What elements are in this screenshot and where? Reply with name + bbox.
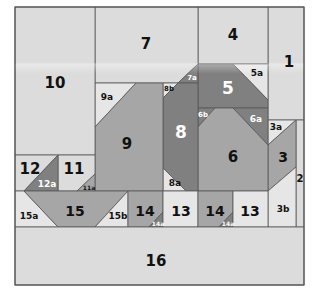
quilt-diagram: 123a33b45a56b6a677a8b88a9a9101111a1212a1… xyxy=(0,0,316,297)
scan-sheen xyxy=(15,7,304,285)
piece-label-16: 16 xyxy=(146,252,167,270)
piece-label-11: 11 xyxy=(64,160,85,178)
piece-label-13-left: 13 xyxy=(171,203,190,219)
piece-label-1: 1 xyxy=(284,53,294,71)
piece-label-9: 9 xyxy=(122,135,132,153)
piece-label-6a: 6a xyxy=(250,114,262,124)
piece-label-7a: 7a xyxy=(187,74,197,82)
piece-label-13-right: 13 xyxy=(240,203,259,219)
piece-label-8b: 8b xyxy=(164,85,174,93)
pieces-group xyxy=(15,7,304,285)
piece-label-7: 7 xyxy=(141,35,151,53)
piece-label-10: 10 xyxy=(45,74,66,92)
piece-label-14a-left: 14a xyxy=(152,220,164,227)
piece-label-11a: 11a xyxy=(83,184,95,191)
piece-label-12: 12 xyxy=(20,160,41,178)
piece-label-6b: 6b xyxy=(198,111,208,119)
piece-label-4: 4 xyxy=(228,26,238,44)
piece-label-15b: 15b xyxy=(109,211,129,221)
piece-label-9a: 9a xyxy=(101,92,113,102)
piece-label-8a: 8a xyxy=(169,178,181,188)
piece-label-14a-right: 14a xyxy=(222,220,234,227)
piece-label-5a: 5a xyxy=(251,68,263,78)
piece-label-12a: 12a xyxy=(38,179,57,189)
piece-label-2: 2 xyxy=(297,173,304,184)
piece-label-14-left: 14 xyxy=(135,203,155,219)
piece-label-6: 6 xyxy=(228,148,238,166)
piece-label-8: 8 xyxy=(175,122,187,142)
piece-label-14-right: 14 xyxy=(205,203,225,219)
piece-label-5: 5 xyxy=(222,78,234,98)
piece-label-15a: 15a xyxy=(20,211,39,221)
piece-label-15: 15 xyxy=(65,203,84,219)
piece-label-3b: 3b xyxy=(277,204,290,214)
piece-label-3a: 3a xyxy=(270,122,282,132)
piece-label-3: 3 xyxy=(278,149,288,165)
